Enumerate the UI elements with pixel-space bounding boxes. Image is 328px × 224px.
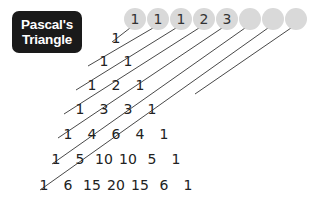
triangle-number: 1 <box>52 151 61 167</box>
sequence-circle: 1 <box>147 8 169 30</box>
triangle-number: 6 <box>160 177 169 193</box>
sequence-circle <box>262 8 284 30</box>
triangle-number: 3 <box>100 101 109 117</box>
triangle-number: 5 <box>76 151 85 167</box>
sequence-circle: 3 <box>216 8 238 30</box>
diagonal-line <box>195 28 291 94</box>
triangle-number: 1 <box>64 126 73 142</box>
triangle-number: 1 <box>184 177 193 193</box>
sequence-circle <box>239 8 261 30</box>
triangle-number: 6 <box>64 177 73 193</box>
triangle-number: 6 <box>112 126 121 142</box>
sequence-circle <box>285 8 307 30</box>
triangle-number: 4 <box>88 126 97 142</box>
triangle-number: 15 <box>83 177 101 193</box>
triangle-number: 1 <box>40 177 49 193</box>
triangle-number: 1 <box>160 126 169 142</box>
triangle-number: 1 <box>148 101 157 117</box>
triangle-number: 3 <box>124 101 133 117</box>
triangle-number: 20 <box>107 177 125 193</box>
triangle-number: 5 <box>148 151 157 167</box>
triangle-number: 10 <box>119 151 137 167</box>
sequence-circle: 2 <box>193 8 215 30</box>
triangle-number: 1 <box>100 53 109 69</box>
triangle-number: 1 <box>76 101 85 117</box>
diagonal-line <box>88 28 153 66</box>
triangle-number: 10 <box>95 151 113 167</box>
triangle-number: 4 <box>136 126 145 142</box>
diagonal-line <box>52 28 245 164</box>
triangle-number: 2 <box>112 77 121 93</box>
sequence-circle: 1 <box>124 8 146 30</box>
triangle-number: 1 <box>112 30 121 46</box>
triangle-number: 1 <box>88 77 97 93</box>
sequence-circle: 1 <box>170 8 192 30</box>
triangle-number: 15 <box>131 177 149 193</box>
triangle-number: 1 <box>172 151 181 167</box>
triangle-number: 1 <box>136 77 145 93</box>
triangle-number: 1 <box>124 53 133 69</box>
